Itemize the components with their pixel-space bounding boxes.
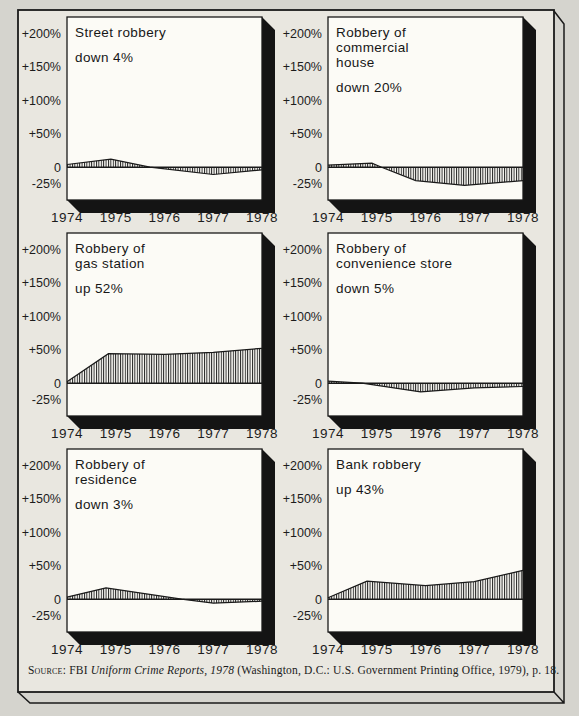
x-tick-label: 1978 — [507, 642, 539, 657]
x-tick-label: 1974 — [51, 426, 83, 441]
x-tick-label: 1975 — [100, 426, 132, 441]
y-tick-label: 0 — [54, 593, 61, 607]
x-tick-label: 1976 — [409, 210, 441, 225]
x-tick-label: 1978 — [246, 642, 278, 657]
y-tick-label: +200% — [283, 27, 322, 41]
x-tick-label: 1978 — [507, 426, 539, 441]
chart-caption: down 5% — [336, 281, 394, 296]
y-tick-label: +150% — [283, 60, 322, 74]
y-tick-label: +100% — [283, 94, 322, 108]
y-tick-label: +200% — [22, 27, 61, 41]
y-tick-label: +100% — [22, 310, 61, 324]
y-tick-label: +50% — [290, 127, 322, 141]
y-tick-label: +50% — [29, 343, 61, 357]
y-tick-label: -25% — [32, 393, 61, 407]
plot-area — [328, 449, 523, 632]
chart-title: residence — [75, 472, 137, 487]
x-tick-label: 1974 — [312, 210, 344, 225]
source-text: FBI — [66, 664, 91, 676]
chart-title: commercial — [336, 40, 409, 55]
y-tick-label: -25% — [293, 393, 322, 407]
y-tick-label: +50% — [290, 559, 322, 573]
y-tick-label: -25% — [293, 609, 322, 623]
chart-title: Robbery of — [336, 25, 406, 40]
y-tick-label: +100% — [283, 526, 322, 540]
chart-gas-station: +200%+150%+100%+50%0-25%1974197519761977… — [22, 233, 278, 441]
source-text-tail: (Washington, D.C.: U.S. Government Print… — [234, 664, 559, 676]
y-tick-label: +100% — [22, 526, 61, 540]
x-tick-label: 1974 — [51, 642, 83, 657]
x-tick-label: 1977 — [458, 642, 490, 657]
y-tick-label: +150% — [283, 492, 322, 506]
y-tick-label: -25% — [32, 609, 61, 623]
x-tick-label: 1978 — [507, 210, 539, 225]
chart-street-robbery: +200%+150%+100%+50%0-25%1974197519761977… — [22, 17, 278, 225]
x-tick-label: 1977 — [197, 642, 229, 657]
x-tick-label: 1975 — [361, 210, 393, 225]
y-tick-label: +100% — [283, 310, 322, 324]
x-tick-label: 1977 — [458, 210, 490, 225]
y-tick-label: 0 — [315, 161, 322, 175]
x-tick-label: 1977 — [197, 426, 229, 441]
x-tick-label: 1977 — [197, 210, 229, 225]
chart-title: house — [336, 55, 375, 70]
x-tick-label: 1977 — [458, 426, 490, 441]
y-tick-label: +150% — [22, 276, 61, 290]
chart-caption: up 43% — [336, 482, 384, 497]
x-tick-label: 1976 — [409, 426, 441, 441]
chart-title: Robbery of — [75, 241, 145, 256]
chart-caption: down 20% — [336, 80, 402, 95]
x-tick-label: 1976 — [409, 642, 441, 657]
figure-sheet: +200%+150%+100%+50%0-25%1974197519761977… — [0, 0, 579, 716]
y-tick-label: +200% — [283, 243, 322, 257]
chart-convenience-store: +200%+150%+100%+50%0-25%1974197519761977… — [283, 233, 539, 441]
y-tick-label: 0 — [54, 377, 61, 391]
y-tick-label: 0 — [54, 161, 61, 175]
chart-commercial-house: +200%+150%+100%+50%0-25%1974197519761977… — [283, 17, 539, 225]
source-label: Source: — [28, 664, 66, 676]
y-tick-label: +200% — [283, 459, 322, 473]
x-tick-label: 1975 — [100, 642, 132, 657]
x-tick-label: 1974 — [312, 426, 344, 441]
charts-canvas: +200%+150%+100%+50%0-25%1974197519761977… — [0, 0, 579, 716]
x-tick-label: 1975 — [361, 642, 393, 657]
chart-caption: up 52% — [75, 281, 123, 296]
x-tick-label: 1974 — [51, 210, 83, 225]
y-tick-label: +150% — [283, 276, 322, 290]
chart-caption: down 3% — [75, 497, 133, 512]
source-title-italic: Uniform Crime Reports, 1978 — [91, 664, 234, 676]
y-tick-label: 0 — [315, 377, 322, 391]
chart-title: Street robbery — [75, 25, 166, 40]
x-tick-label: 1976 — [148, 426, 180, 441]
y-tick-label: +50% — [29, 127, 61, 141]
x-tick-label: 1975 — [100, 210, 132, 225]
x-tick-label: 1976 — [148, 642, 180, 657]
y-tick-label: +200% — [22, 243, 61, 257]
x-tick-label: 1974 — [312, 642, 344, 657]
chart-title: Robbery of — [75, 457, 145, 472]
chart-title: convenience store — [336, 256, 452, 271]
chart-title: Bank robbery — [336, 457, 421, 472]
chart-residence: +200%+150%+100%+50%0-25%1974197519761977… — [22, 449, 278, 657]
y-tick-label: +50% — [290, 343, 322, 357]
x-tick-label: 1975 — [361, 426, 393, 441]
x-tick-label: 1976 — [148, 210, 180, 225]
x-tick-label: 1978 — [246, 210, 278, 225]
y-tick-label: 0 — [315, 593, 322, 607]
chart-title: Robbery of — [336, 241, 406, 256]
source-note: Source: FBI Uniform Crime Reports, 1978 … — [28, 664, 540, 676]
chart-caption: down 4% — [75, 50, 133, 65]
y-tick-label: +50% — [29, 559, 61, 573]
chart-bank-robbery: +200%+150%+100%+50%0-25%1974197519761977… — [283, 449, 539, 657]
y-tick-label: +150% — [22, 492, 61, 506]
y-tick-label: -25% — [32, 177, 61, 191]
y-tick-label: +200% — [22, 459, 61, 473]
y-tick-label: +150% — [22, 60, 61, 74]
x-tick-label: 1978 — [246, 426, 278, 441]
chart-title: gas station — [75, 256, 145, 271]
y-tick-label: +100% — [22, 94, 61, 108]
y-tick-label: -25% — [293, 177, 322, 191]
